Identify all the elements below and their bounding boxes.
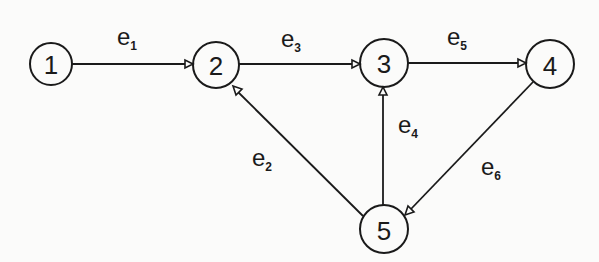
graph-svg: e1 e3 e5 e4 e2 e6 1 2 3 4 [0,0,599,262]
edge-label-e6: e6 [481,153,501,183]
arrowhead-icon [185,60,193,68]
edge-label-e5: e5 [447,23,467,53]
node-5: 5 [360,205,408,253]
arrowhead-icon [518,59,526,67]
arrowhead-icon [352,60,360,68]
arrowhead-icon [379,87,387,95]
node-3: 3 [360,39,408,87]
edge-e1: e1 [72,23,193,68]
edge-e4: e4 [379,87,418,205]
edge-label-e4: e4 [398,111,418,141]
node-label-2: 2 [209,51,223,81]
edge-e3: e3 [239,25,360,68]
edge-label-e2: e2 [252,144,272,174]
node-label-5: 5 [377,216,391,246]
graph-diagram: e1 e3 e5 e4 e2 e6 1 2 3 4 [0,0,599,262]
node-1: 1 [30,43,72,85]
node-2: 2 [193,42,239,88]
node-label-3: 3 [377,49,391,79]
node-label-4: 4 [543,51,557,81]
node-label-1: 1 [44,50,58,80]
edge-e2: e2 [233,86,363,216]
edge-e6: e6 [405,82,533,215]
edge-label-e3: e3 [281,25,301,55]
edge-label-e1: e1 [117,23,137,53]
edge-e5: e5 [408,23,526,67]
node-4: 4 [526,40,574,88]
